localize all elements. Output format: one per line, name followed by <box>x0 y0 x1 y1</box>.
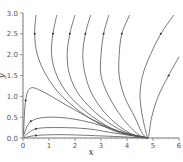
y-tick-label: 1.5 <box>7 72 18 80</box>
trajectory-line <box>148 57 179 138</box>
x-tick-label: 2 <box>73 142 77 150</box>
y-tick-label: 2.0 <box>7 51 18 59</box>
trajectory-arrow-marker <box>121 33 123 35</box>
trajectory-line <box>35 15 148 138</box>
y-axis-label: y <box>0 73 6 80</box>
x-tick-label: 6 <box>177 142 182 150</box>
trajectory-line <box>100 15 147 138</box>
phase-portrait-chart: 01234560.00.51.01.52.02.53.0xy <box>0 0 183 162</box>
trajectory-arrow-marker <box>168 75 170 77</box>
trajectory-line <box>24 88 148 138</box>
x-axis-label: x <box>88 147 93 157</box>
trajectory-arrow-marker <box>84 33 86 35</box>
trajectory-line <box>51 15 147 138</box>
trajectory-arrow-marker <box>35 128 37 130</box>
trajectory-arrow-marker <box>160 33 162 35</box>
y-tick-label: 3.0 <box>7 10 18 18</box>
x-tick-label: 0 <box>21 142 25 150</box>
trajectory-arrow-marker <box>35 135 37 137</box>
trajectory-arrow-marker <box>25 100 27 102</box>
y-tick-label: 2.5 <box>7 30 18 38</box>
y-tick-label: 0.0 <box>7 135 18 143</box>
x-tick-label: 4 <box>125 142 130 150</box>
trajectory-line <box>140 15 174 138</box>
x-tick-label: 5 <box>151 142 155 150</box>
trajectory-arrow-marker <box>34 33 36 35</box>
y-tick-label: 0.5 <box>7 114 18 122</box>
trajectory-arrow-marker <box>30 120 32 122</box>
trajectory-arrow-marker <box>52 33 54 35</box>
trajectory-arrow-marker <box>103 33 105 35</box>
trajectory-arrow-marker <box>69 33 71 35</box>
x-tick-label: 1 <box>47 142 51 150</box>
x-tick-label: 3 <box>99 142 103 150</box>
y-tick-label: 1.0 <box>7 93 18 101</box>
